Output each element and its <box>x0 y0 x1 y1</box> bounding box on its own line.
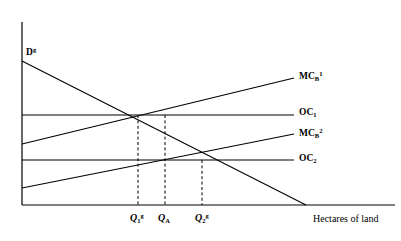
axes-group <box>22 22 395 205</box>
curve-d-g <box>22 61 306 205</box>
x-tick-label-2: QA <box>158 213 170 224</box>
curve-label-oc-2: OC2 <box>299 154 317 164</box>
curve-label-oc-2-base: OC <box>299 153 313 163</box>
curve-label-oc-2-sub: 2 <box>313 157 316 164</box>
x-axis-title: Hectares of land <box>313 214 379 224</box>
x-tick-label-3: Q2g <box>195 213 209 225</box>
curve-label-oc-1-base: OC <box>299 107 313 117</box>
curve-mc-b-1 <box>22 78 294 144</box>
curve-mc-b-2 <box>22 134 294 188</box>
curve-label-demand-base: D <box>26 47 33 57</box>
curve-label-oc-1-sub: 1 <box>313 111 316 118</box>
curve-label-mc-b-1: MCB1 <box>299 71 322 83</box>
x-tick-label-3-sup: g <box>205 212 208 219</box>
curve-label-oc-1: OC1 <box>299 108 317 118</box>
diagram-canvas <box>0 0 401 241</box>
x-tick-label-1: Q1g <box>130 213 144 225</box>
curve-label-demand-sup: g <box>33 46 36 53</box>
curve-label-mc-b-2-base: MC <box>299 128 315 138</box>
curve-label-demand: Dg <box>26 47 36 58</box>
curve-label-mc-b-2-sup: 2 <box>319 127 322 134</box>
x-tick-label-2-sub: A <box>165 217 170 224</box>
curve-label-mc-b-1-base: MC <box>299 71 315 81</box>
curve-label-mc-b-1-sup: 1 <box>319 70 322 77</box>
series-lines-group <box>22 61 306 205</box>
x-tick-label-1-sup: g <box>140 212 143 219</box>
economics-line-diagram: Dg MCB1 OC1 MCB2 OC2 Hectares of land Q1… <box>0 0 401 241</box>
curve-label-mc-b-2: MCB2 <box>299 128 322 140</box>
